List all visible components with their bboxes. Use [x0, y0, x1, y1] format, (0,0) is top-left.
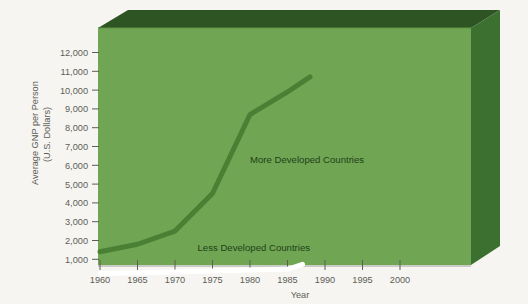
x-tick-label: 1975 — [202, 275, 222, 285]
y-tick-label: 5,000 — [65, 180, 88, 190]
y-tick-label: 2,000 — [65, 236, 88, 246]
panel-face — [98, 28, 471, 265]
panel-right-bevel — [471, 10, 500, 265]
y-tick-label: 1,000 — [65, 255, 88, 265]
series-label-less-developed: Less Developed Countries — [198, 242, 311, 253]
y-axis-title-line1: Average GNP per Person — [30, 81, 40, 185]
x-axis-title: Year — [291, 290, 310, 300]
y-tick-label: 6,000 — [65, 161, 88, 171]
x-tick-label: 1970 — [165, 275, 185, 285]
x-tick-label: 1985 — [277, 275, 297, 285]
y-tick-label: 11,000 — [61, 67, 88, 77]
y-axis-title-line2: (U.S. Dollars) — [42, 107, 52, 162]
y-tick-label: 9,000 — [65, 104, 88, 114]
y-tick-label: 8,000 — [65, 123, 88, 133]
y-tick-label: 3,000 — [65, 217, 88, 227]
panel-top-bevel — [98, 10, 500, 28]
y-tick-label: 4,000 — [65, 198, 88, 208]
x-tick-label: 1965 — [127, 275, 147, 285]
x-tick-label: 1980 — [240, 275, 260, 285]
y-tick-label: 7,000 — [65, 142, 88, 152]
y-tick-label: 12,000 — [60, 48, 88, 58]
gnp-line-chart-svg: 12,000 11,000 10,000 9,000 8,000 7,000 — [0, 0, 528, 304]
x-tick-label: 1960 — [90, 275, 110, 285]
x-tick-label: 1990 — [315, 275, 335, 285]
x-tick-label: 1995 — [352, 275, 372, 285]
chart-figure: 12,000 11,000 10,000 9,000 8,000 7,000 — [0, 0, 528, 304]
series-label-more-developed: More Developed Countries — [250, 154, 364, 165]
x-tick-label: 2000 — [390, 275, 410, 285]
y-tick-label: 10,000 — [60, 86, 88, 96]
